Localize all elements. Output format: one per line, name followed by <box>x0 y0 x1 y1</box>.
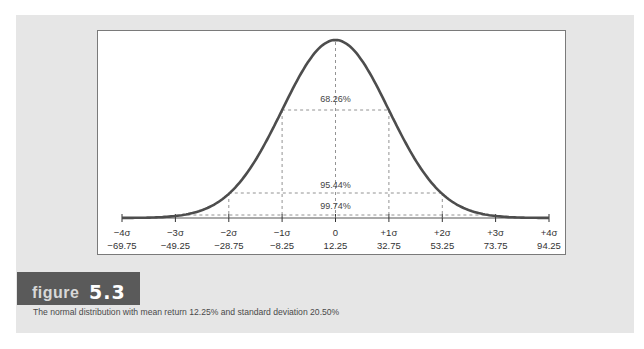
sigma-labels: −4σ −3σ −2σ −1σ 0 +1σ +2σ +3σ +4σ <box>114 227 558 238</box>
svg-text:+2σ: +2σ <box>434 227 451 238</box>
pct-68: 68.26% <box>320 94 351 104</box>
svg-text:73.75: 73.75 <box>484 240 508 251</box>
pct-95: 95.44% <box>320 180 351 190</box>
svg-text:12.25: 12.25 <box>324 240 348 251</box>
figure-number: 5.3 <box>89 281 126 303</box>
svg-text:−1σ: −1σ <box>274 227 291 238</box>
svg-text:−2σ: −2σ <box>220 227 237 238</box>
svg-text:+4σ: +4σ <box>541 227 558 238</box>
svg-text:32.75: 32.75 <box>377 240 401 251</box>
svg-text:94.25: 94.25 <box>537 240 561 251</box>
figure-caption: The normal distribution with mean return… <box>33 307 339 317</box>
svg-text:−69.75: −69.75 <box>107 240 136 251</box>
svg-text:+3σ: +3σ <box>487 227 504 238</box>
svg-text:−8.25: −8.25 <box>270 240 294 251</box>
svg-text:+1σ: +1σ <box>381 227 398 238</box>
svg-text:53.25: 53.25 <box>430 240 454 251</box>
pct-99: 99.74% <box>320 201 351 211</box>
svg-text:−3σ: −3σ <box>167 227 184 238</box>
return-labels: −69.75 −49.25 −28.75 −8.25 12.25 32.75 5… <box>107 240 561 251</box>
figure-label-word: figure <box>32 284 79 302</box>
sigma-guides <box>175 42 495 218</box>
svg-text:−4σ: −4σ <box>114 227 131 238</box>
svg-text:0: 0 <box>333 227 338 238</box>
svg-text:−49.25: −49.25 <box>161 240 190 251</box>
svg-text:−28.75: −28.75 <box>214 240 243 251</box>
